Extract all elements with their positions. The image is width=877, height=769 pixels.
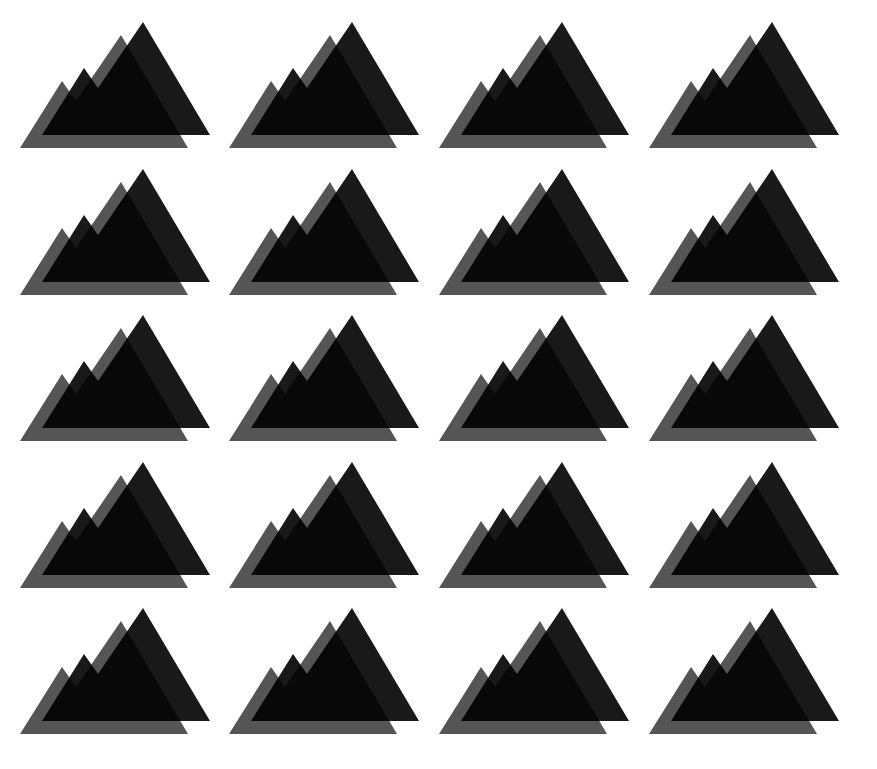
mountain-front-layer [461,315,629,428]
mountain-icon [20,315,220,455]
mountain-icon [229,608,429,748]
mountain-front-layer [671,315,839,428]
mountain-icon [439,315,639,455]
mountain-front-layer [671,22,839,135]
mountain-icon-grid [0,0,877,769]
mountain-icon [439,22,639,162]
mountain-front-layer [461,608,629,721]
mountain-front-layer [251,22,419,135]
mountain-front-layer [671,608,839,721]
mountain-icon [229,315,429,455]
mountain-icon [649,22,849,162]
mountain-icon [649,462,849,602]
mountain-icon [229,169,429,309]
mountain-front-layer [251,169,419,282]
mountain-front-layer [461,462,629,575]
mountain-front-layer [671,462,839,575]
mountain-icon [20,462,220,602]
mountain-front-layer [251,608,419,721]
mountain-front-layer [42,22,210,135]
mountain-icon [649,315,849,455]
mountain-icon [229,22,429,162]
mountain-icon [229,462,429,602]
mountain-icon [439,608,639,748]
mountain-icon [20,608,220,748]
mountain-icon [20,169,220,309]
mountain-icon [439,462,639,602]
mountain-icon [439,169,639,309]
mountain-front-layer [42,169,210,282]
mountain-icon [649,169,849,309]
mountain-front-layer [42,608,210,721]
mountain-front-layer [42,462,210,575]
mountain-front-layer [461,169,629,282]
mountain-front-layer [671,169,839,282]
mountain-front-layer [251,315,419,428]
mountain-front-layer [461,22,629,135]
mountain-icon [649,608,849,748]
mountain-icon [20,22,220,162]
mountain-front-layer [251,462,419,575]
mountain-front-layer [42,315,210,428]
